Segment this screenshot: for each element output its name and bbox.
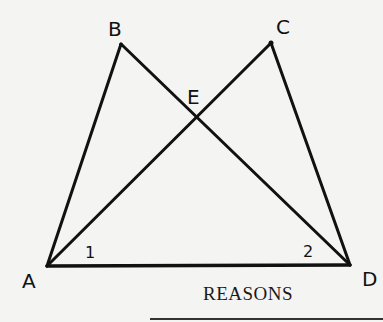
point-label-d: D	[362, 267, 377, 291]
segment-ad	[47, 265, 350, 266]
point-label-a: A	[22, 269, 36, 293]
divider	[150, 318, 383, 320]
reasons-heading: REASONS	[203, 283, 293, 305]
angle-label-1: 1	[85, 243, 95, 262]
point-label-b: B	[108, 17, 122, 41]
vertex-b-dot	[119, 43, 123, 47]
segment-ab	[47, 44, 121, 266]
vertex-c-dot	[269, 41, 274, 46]
segment-cd	[271, 43, 350, 265]
point-label-e: E	[187, 85, 200, 109]
point-label-c: C	[276, 15, 290, 39]
angle-label-2: 2	[303, 242, 313, 261]
geometry-diagram: B C E A D 1 2	[0, 0, 383, 322]
